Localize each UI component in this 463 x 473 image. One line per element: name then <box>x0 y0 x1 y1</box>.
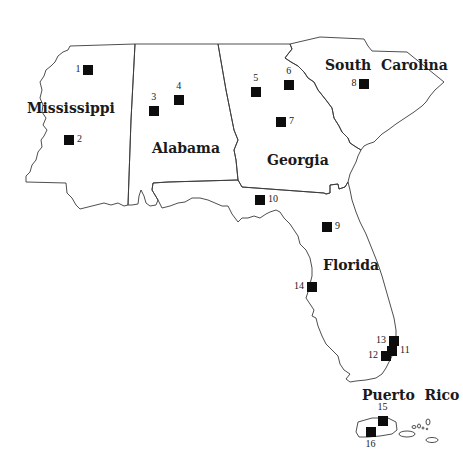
site-number-1: 1 <box>76 63 81 74</box>
island-st-thomas <box>426 419 430 425</box>
site-number-16: 16 <box>366 438 376 449</box>
site-marker-2 <box>64 135 74 145</box>
site-number-4: 4 <box>176 80 181 91</box>
site-number-11: 11 <box>400 344 410 355</box>
site-marker-10 <box>255 195 265 205</box>
site-marker-8 <box>359 79 369 89</box>
state-label-mississippi: Mississippi <box>27 100 115 116</box>
site-marker-3 <box>149 106 159 116</box>
site-number-7: 7 <box>289 115 294 126</box>
site-marker-9 <box>322 222 332 232</box>
site-number-5: 5 <box>253 72 258 83</box>
island-st-croix <box>426 438 438 443</box>
site-marker-4 <box>174 95 184 105</box>
site-number-13: 13 <box>376 334 386 345</box>
site-marker-13 <box>389 336 399 346</box>
site-marker-12 <box>381 351 391 361</box>
site-marker-1 <box>83 65 93 75</box>
mississippi-outline <box>26 44 135 209</box>
site-number-2: 2 <box>77 133 82 144</box>
island-vieques <box>399 431 415 437</box>
florida-outline <box>152 180 396 382</box>
site-number-6: 6 <box>286 65 291 76</box>
state-label-georgia: Georgia <box>267 152 329 168</box>
island-small-2 <box>422 427 424 429</box>
state-label-florida: Florida <box>323 257 379 273</box>
site-number-8: 8 <box>352 77 357 88</box>
site-marker-5 <box>251 87 261 97</box>
site-marker-14 <box>307 282 317 292</box>
site-marker-16 <box>366 427 376 437</box>
south-carolina-outline <box>285 37 444 150</box>
site-number-10: 10 <box>268 193 278 204</box>
site-marker-15 <box>378 416 388 426</box>
site-number-3: 3 <box>151 91 156 102</box>
site-number-15: 15 <box>378 401 388 412</box>
island-small-3 <box>426 428 428 430</box>
site-number-14: 14 <box>294 280 304 291</box>
site-marker-6 <box>284 80 294 90</box>
island-small-1 <box>418 424 421 428</box>
site-number-9: 9 <box>335 220 340 231</box>
state-label-alabama: Alabama <box>152 140 220 156</box>
island-culebra <box>412 426 416 429</box>
site-number-12: 12 <box>368 349 378 360</box>
site-marker-7 <box>276 117 286 127</box>
state-label-south-carolina: South Carolina <box>325 57 448 73</box>
puerto-rico-outline <box>356 418 397 437</box>
